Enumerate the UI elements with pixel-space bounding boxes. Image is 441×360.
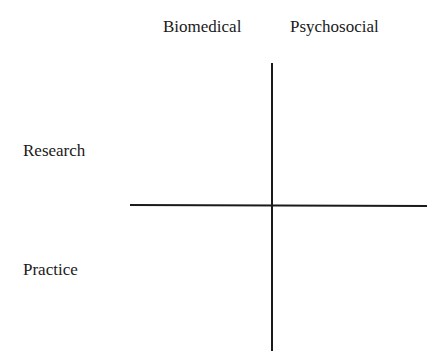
column-label-biomedical: Biomedical <box>163 17 241 37</box>
column-label-psychosocial: Psychosocial <box>290 17 379 37</box>
row-label-practice: Practice <box>23 260 78 280</box>
horizontal-axis-line <box>130 204 427 207</box>
row-label-research: Research <box>23 141 85 161</box>
vertical-axis-line <box>271 63 273 351</box>
